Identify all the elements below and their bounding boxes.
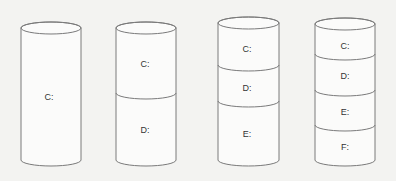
partition-label-c: C: [341, 41, 350, 51]
cylinder-body [116, 22, 176, 166]
partition-diagram: C: C: D: C: D: E: C: D: E: F: [0, 0, 396, 181]
partition-label-c: C: [45, 92, 54, 102]
partition-label-e: E: [243, 129, 252, 139]
partition-label-d: D: [141, 125, 150, 135]
disk-1: C: [21, 22, 81, 166]
partition-label-e: E: [341, 107, 350, 117]
disk-4: C: D: E: F: [315, 18, 375, 166]
partition-label-c: C: [243, 44, 252, 54]
disk-2: C: D: [116, 22, 176, 166]
partition-label-f: F: [341, 142, 349, 152]
disk-3: C: D: E: [218, 17, 279, 166]
partition-label-d: D: [243, 83, 252, 93]
partition-label-c: C: [141, 59, 150, 69]
partition-label-d: D: [341, 71, 350, 81]
